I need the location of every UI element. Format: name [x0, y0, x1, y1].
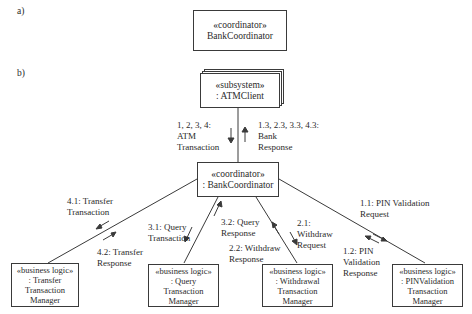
object-name-line: : Query — [171, 276, 197, 286]
stereotype: «business logic» — [17, 265, 73, 275]
withdrawal-transaction-manager-object: «business logic» : Withdrawal Transactio… — [262, 264, 333, 307]
message-query-response: 3.2: Query Response — [221, 217, 260, 239]
message-withdraw-response: 2.2: Withdraw Response — [229, 243, 280, 265]
message-transfer-response: 4.2: Transfer Response — [97, 247, 143, 269]
message-transfer-transaction: 4.1: Transfer Transaction — [67, 196, 113, 218]
object-name: : BankCoordinator — [203, 180, 274, 191]
message-bank-response: 1.3, 2.3, 3.3, 4.3: Bank Response — [258, 120, 319, 153]
object-name-line: Transaction — [25, 285, 65, 295]
object-name-line: : PINValidation — [401, 276, 454, 286]
message-pin-response: 1.2: PIN Validation Response — [343, 246, 380, 279]
object-name-line: : Transfer — [29, 275, 62, 285]
object-name-line: : Withdrawal — [275, 276, 319, 286]
message-pin-request: 1.1: PIN Validation Request — [360, 198, 430, 220]
stereotype: «coordinator» — [211, 169, 264, 180]
message-atm-transaction: 1, 2, 3, 4: ATM Transaction — [177, 120, 219, 153]
object-name: : ATMClient — [216, 91, 264, 102]
message-query-transaction: 3.1: Query Transaction — [148, 222, 190, 244]
pin-validation-transaction-manager-object: «business logic» : PINValidation Transac… — [392, 264, 463, 307]
object-name-line: Manager — [282, 296, 312, 306]
stereotype: «business logic» — [269, 266, 325, 276]
object-name-line: Manager — [412, 296, 442, 306]
object-name-line: Manager — [30, 295, 60, 305]
stereotype: «business logic» — [155, 266, 211, 276]
stereotype: «business logic» — [399, 266, 455, 276]
bank-coordinator-object: «coordinator» : BankCoordinator — [197, 162, 279, 197]
object-name-line: Transaction — [164, 286, 204, 296]
message-withdraw-request: 2.1: Withdraw Request — [297, 218, 333, 251]
object-name-line: Transaction — [408, 286, 448, 296]
object-name-line: Manager — [168, 296, 198, 306]
stereotype: «subsystem» — [215, 80, 264, 91]
atm-client-object: «subsystem» : ATMClient — [200, 73, 280, 108]
transfer-transaction-manager-object: «business logic» : Transfer Transaction … — [11, 263, 79, 307]
query-transaction-manager-object: «business logic» : Query Transaction Man… — [148, 264, 219, 307]
object-name-line: Transaction — [278, 286, 318, 296]
